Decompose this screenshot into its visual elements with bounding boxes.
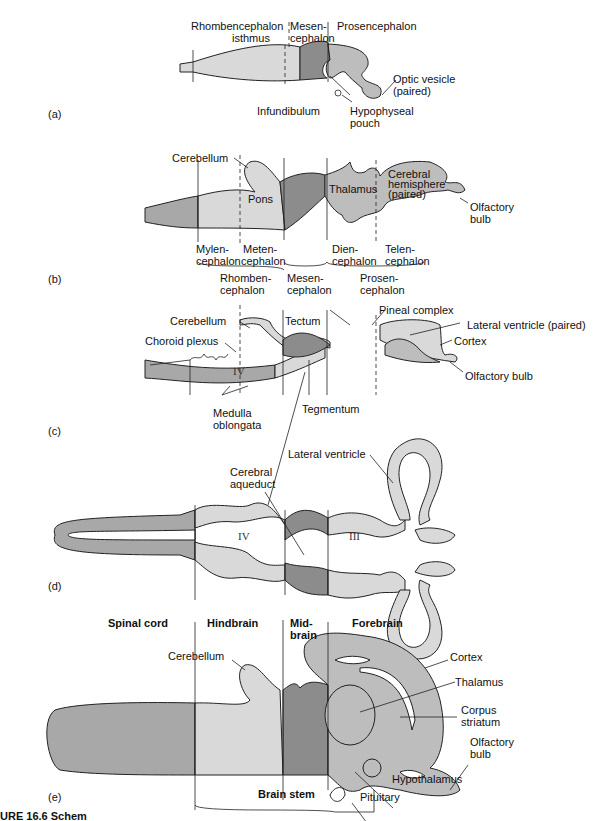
- label-e-cerebellum: Cerebellum: [168, 650, 224, 662]
- label-optic-vesicle-paired: (paired): [393, 85, 431, 97]
- label-hypothalamus: Hypothalamus: [392, 773, 462, 785]
- label-prosen: Prosen-: [360, 272, 399, 284]
- label-prosencephalon: Prosencephalon: [337, 20, 417, 32]
- label-c-cerebellum: Cerebellum: [170, 315, 226, 327]
- label-hypophyseal-pouch: pouch: [350, 117, 380, 129]
- label-b-olfactory-bulb: bulb: [470, 213, 491, 225]
- label-choroid-plexus: Choroid plexus: [145, 335, 218, 347]
- label-hypophyseal: Hypophyseal: [350, 105, 414, 117]
- label-pineal-complex: Pineal complex: [379, 304, 454, 316]
- label-mesen: Mesen-: [290, 20, 327, 32]
- panel-a-mesencephalon: [300, 41, 330, 80]
- label-e-thalamus: Thalamus: [455, 676, 503, 688]
- label-brain-stem: Brain stem: [258, 788, 315, 800]
- panel-b-mesencephalon: [280, 173, 325, 230]
- label-mesen-cephalon: cephalon: [290, 32, 335, 44]
- label-hindbrain: Hindbrain: [207, 617, 258, 629]
- panel-e-hindbrain: [195, 665, 283, 775]
- panel-a-tag: (a): [48, 108, 61, 120]
- label-tegmentum: Tegmentum: [302, 403, 359, 415]
- panel-a-rhombencephalon: [180, 45, 300, 81]
- panel-d-mesen-top: [285, 510, 328, 540]
- panel-d-dien-top: [328, 513, 405, 537]
- label-rhombencephalon: Rhombencephalon: [191, 20, 283, 32]
- panel-d-rhomben-top: [195, 503, 285, 528]
- label-telen: Telen-: [385, 243, 415, 255]
- label-rhomben-cephalon: cephalon: [220, 284, 265, 296]
- label-d-ventricle-iii: III: [349, 530, 360, 542]
- label-c-olfactory-bulb: Olfactory bulb: [465, 370, 533, 382]
- panel-e-tag: (e): [48, 791, 61, 803]
- label-b-olfactory: Olfactory: [470, 201, 514, 213]
- panel-c-tag: (c): [48, 425, 61, 437]
- label-c-cortex: Cortex: [454, 335, 486, 347]
- label-hemisphere-paired: (paired): [388, 188, 426, 200]
- panel-d-mesen-bottom: [285, 563, 328, 595]
- panel-b-tag: (b): [48, 273, 61, 285]
- panel-b-myelencephalon: [145, 196, 198, 228]
- label-d-lateral-ventricle: Lateral ventricle: [288, 448, 366, 460]
- figure-caption: URE 16.6 Schem: [0, 810, 87, 821]
- label-mid: Mid-: [290, 617, 313, 629]
- label-pituitary: Pituitary: [360, 791, 400, 803]
- label-b-mesen: Mesen-: [287, 272, 324, 284]
- label-cerebral: Cerebral: [230, 466, 272, 478]
- label-dien-cephalon: cephalon: [332, 255, 377, 267]
- panel-d-rhomben-bottom: [195, 542, 285, 581]
- label-brain: brain: [290, 629, 317, 641]
- label-aqueduct: aqueduct: [230, 478, 275, 490]
- label-mylen: Mylen-: [196, 243, 229, 255]
- panel-a-prosencephalon: [326, 44, 381, 98]
- label-b-mesen-cephalon: cephalon: [287, 284, 332, 296]
- label-meten-cephalon: cephalon: [241, 255, 286, 267]
- panel-d-dien-bottom: [328, 570, 405, 598]
- label-c-lateral-ventricle: Lateral ventricle (paired): [467, 319, 586, 331]
- label-dien: Dien-: [332, 243, 358, 255]
- label-pons: Pons: [248, 193, 273, 205]
- label-optic-vesicle: Optic vesicle: [393, 73, 455, 85]
- label-mylen-cephalon: cephalon: [196, 255, 241, 267]
- label-telen-cephalon: cephalon: [385, 255, 430, 267]
- panel-e-thalamus: [325, 685, 375, 745]
- label-d-ventricle-iv: IV: [238, 530, 250, 542]
- label-c-ventricle-iv: IV: [233, 365, 245, 377]
- panel-e-midbrain: [283, 682, 328, 775]
- label-e-cortex: Cortex: [450, 651, 482, 663]
- label-corpus: Corpus: [461, 704, 496, 716]
- label-oblongata: oblongata: [213, 419, 261, 431]
- panel-d-lateral-ventricle-top: [387, 439, 442, 525]
- label-rhomben: Rhomben-: [220, 272, 271, 284]
- label-prosen-cephalon: cephalon: [360, 284, 405, 296]
- label-forebrain: Forebrain: [352, 617, 403, 629]
- label-e-olfactory-bulb: bulb: [470, 748, 491, 760]
- panel-d-tag: (d): [48, 580, 61, 592]
- label-tectum: Tectum: [285, 315, 320, 327]
- label-b-cerebellum: Cerebellum: [172, 152, 228, 164]
- label-b-thalamus: Thalamus: [329, 183, 377, 195]
- label-isthmus: isthmus: [232, 32, 270, 44]
- label-spinal-cord: Spinal cord: [108, 617, 168, 629]
- panel-e-spinal-cord: [47, 703, 195, 775]
- label-e-olfactory: Olfactory: [470, 736, 514, 748]
- label-medulla: Medulla: [213, 407, 252, 419]
- panel-a-embryo-brain: [180, 22, 396, 102]
- label-infundibulum: Infundibulum: [257, 105, 320, 117]
- label-meten: Meten-: [243, 243, 277, 255]
- label-striatum: striatum: [461, 716, 500, 728]
